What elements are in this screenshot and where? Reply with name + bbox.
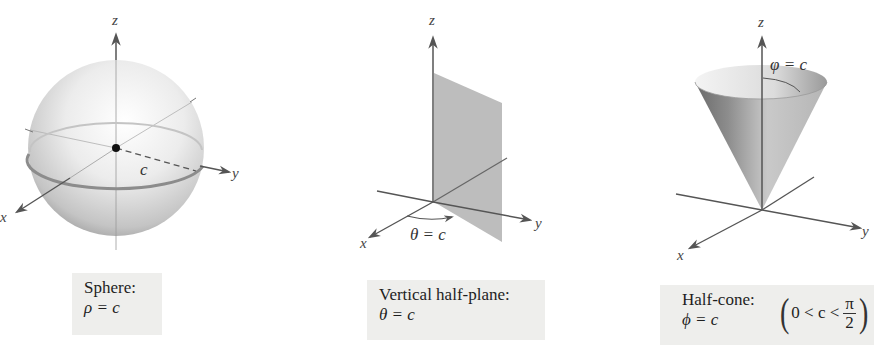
- caption-title: Sphere:: [84, 278, 154, 298]
- half-plane-figure: θ = c z y x: [359, 12, 542, 251]
- y-tick: [190, 98, 196, 102]
- sphere-caption: Sphere: ρ = c: [72, 273, 162, 335]
- cone-surface: [695, 82, 827, 210]
- z-axis-label: z: [757, 14, 764, 30]
- theta-label: θ = c: [410, 225, 446, 244]
- condition-left: 0 < c <: [791, 303, 839, 323]
- x-axis-label: x: [676, 247, 684, 263]
- z-axis-label: z: [111, 12, 118, 28]
- caption-equation: ρ = c: [84, 298, 154, 318]
- x-axis-arrow: [690, 210, 762, 248]
- half-cone-figure: φ = c z y x: [676, 14, 869, 263]
- phi-label: φ = c: [770, 55, 807, 74]
- y-axis-label: y: [860, 223, 869, 239]
- fraction: π 2: [843, 295, 856, 332]
- y-axis-label: y: [230, 165, 239, 181]
- half-plane-caption: Vertical half-plane: θ = c: [367, 280, 545, 340]
- radius-label: c: [140, 160, 148, 179]
- condition: ( 0 < c < π 2 ): [778, 293, 870, 333]
- y-axis-arrow: [762, 210, 860, 228]
- half-plane-surface: [434, 73, 502, 242]
- close-paren: ): [859, 293, 868, 333]
- open-paren: (: [780, 293, 789, 333]
- denominator: 2: [845, 314, 854, 332]
- half-cone-caption: Half-cone: ϕ = c ( 0 < c < π 2 ): [660, 285, 874, 345]
- caption-title: Vertical half-plane:: [379, 285, 537, 305]
- x-axis-back: [676, 194, 762, 210]
- x-axis-label: x: [0, 209, 7, 225]
- y-axis-label: y: [533, 215, 542, 231]
- numerator: π: [843, 295, 856, 314]
- condition-text: 0 < c <: [791, 303, 839, 322]
- y-axis-arrow: [200, 166, 229, 172]
- z-axis-label: z: [428, 12, 435, 28]
- sphere-figure: c z y x: [0, 12, 239, 250]
- theta-arc: [407, 216, 452, 219]
- caption-equation: θ = c: [379, 305, 537, 325]
- center-point: [112, 144, 120, 152]
- x-axis-label: x: [359, 235, 367, 251]
- x-axis-back: [377, 191, 433, 202]
